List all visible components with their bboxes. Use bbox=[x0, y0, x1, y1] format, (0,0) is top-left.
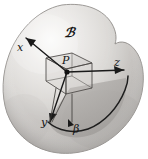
axis-y-label: y bbox=[41, 117, 47, 128]
point-p-marker bbox=[64, 69, 69, 74]
curve-beta-label: β bbox=[73, 124, 79, 135]
axis-z-label: z bbox=[114, 57, 120, 68]
point-p-label: P bbox=[62, 55, 69, 66]
figure-canvas: x y z P β ℬ bbox=[0, 0, 148, 159]
body-label: ℬ bbox=[63, 26, 74, 39]
axis-x-label: x bbox=[17, 42, 23, 53]
